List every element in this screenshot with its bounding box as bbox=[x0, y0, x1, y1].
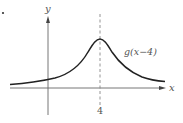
graph: y x 4 g(x−4) bbox=[0, 0, 183, 123]
curve-label: g(x−4) bbox=[124, 46, 157, 57]
x-axis-arrow-icon bbox=[159, 86, 166, 90]
x-axis bbox=[10, 86, 166, 90]
y-axis-label: y bbox=[44, 3, 51, 14]
y-axis bbox=[46, 16, 50, 115]
bullet-marker bbox=[2, 12, 4, 14]
y-axis-arrow-icon bbox=[46, 16, 50, 23]
x-tick-4: 4 bbox=[97, 105, 103, 116]
x-axis-label: x bbox=[169, 82, 175, 93]
